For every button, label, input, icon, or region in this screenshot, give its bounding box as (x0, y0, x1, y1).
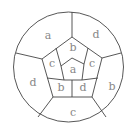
region-label-middle-bottom-right: d (79, 81, 86, 94)
region-label-center: a (70, 63, 77, 76)
region-label-middle-left: c (49, 57, 55, 70)
inner-spoke-5 (47, 78, 64, 80)
inner-spoke-2 (84, 48, 88, 64)
region-label-outer-bottom: c (70, 106, 76, 119)
region-label-outer-top-left: a (45, 29, 52, 42)
inner-spoke-3 (82, 78, 98, 80)
region-label-outer-top-right: d (92, 28, 99, 41)
region-label-middle-bottom-left: b (57, 81, 64, 94)
spoke-bottom-left (38, 97, 53, 117)
spoke-bottom-right (92, 97, 106, 117)
outer-circle (14, 12, 124, 122)
spoke-left (16, 53, 42, 59)
map-coloring-diagram: a d b c d b c d b c a (0, 0, 134, 136)
region-label-middle-top: b (69, 41, 76, 54)
spoke-right (102, 53, 121, 58)
region-label-outer-right: b (108, 80, 115, 93)
inner-spoke-1 (56, 48, 61, 66)
region-label-middle-right: c (89, 57, 95, 70)
region-label-outer-left: d (29, 76, 36, 89)
